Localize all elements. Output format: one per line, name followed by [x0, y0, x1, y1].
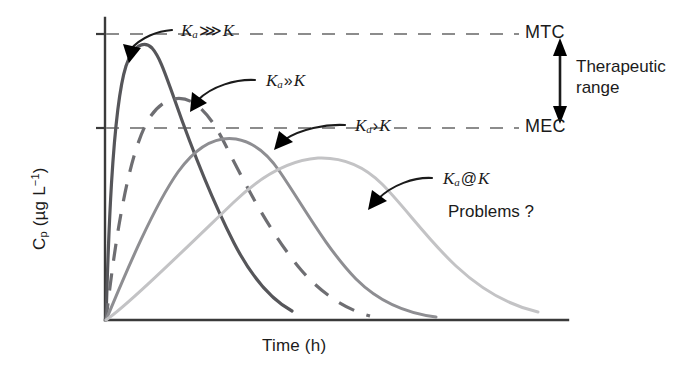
curve-label-4-k: K: [443, 169, 454, 188]
curve-label-4-rhs: K: [478, 169, 489, 188]
curve-label-3-k: K: [355, 116, 366, 135]
curve-label-1-k: K: [181, 21, 192, 40]
curve-label-ka-much-much-greater: Ka⋙K: [181, 22, 234, 40]
curve-ka-greater: [106, 139, 436, 320]
curve-label-ka-greater: Ka›K: [355, 117, 391, 135]
problems-note: Problems ?: [448, 203, 534, 220]
leader-arrow-2-line: [198, 80, 255, 100]
x-axis-label: Time (h): [262, 337, 326, 354]
y-axis-label-subscript: p: [37, 231, 49, 237]
y-axis-label-units-exponent: −1: [29, 173, 41, 186]
plasma-concentration-plot: [0, 0, 696, 369]
y-axis-label: Cp (µg L−1): [30, 167, 49, 250]
therapeutic-range-label: Therapeutic range: [576, 57, 666, 98]
mec-label: MEC: [525, 117, 566, 135]
curve-label-2-operator: »: [283, 72, 294, 89]
y-axis-label-c: C: [30, 238, 49, 250]
leader-arrow-3-line: [284, 125, 345, 140]
figure-container: Cp (µg L−1) Time (h) MTC MEC Therapeutic…: [0, 0, 696, 369]
curve-label-ka-approx-equal: Ka@K: [443, 170, 489, 188]
curve-label-1-rhs: K: [223, 21, 234, 40]
curve-label-1-operator: ⋙: [198, 22, 223, 39]
y-axis-label-units-close: ): [30, 167, 49, 173]
curve-label-ka-much-greater: Ka»K: [266, 72, 305, 90]
curve-label-3-rhs: K: [379, 116, 390, 135]
leader-arrow-3-head: [274, 131, 293, 150]
curve-label-2-rhs: K: [294, 71, 305, 90]
curve-ka-much-much-greater: [106, 44, 292, 320]
curve-label-4-operator: @: [460, 170, 478, 187]
y-axis-label-units-open: (µg L: [30, 186, 49, 231]
mtc-label: MTC: [525, 23, 565, 41]
curve-label-2-k: K: [266, 71, 277, 90]
